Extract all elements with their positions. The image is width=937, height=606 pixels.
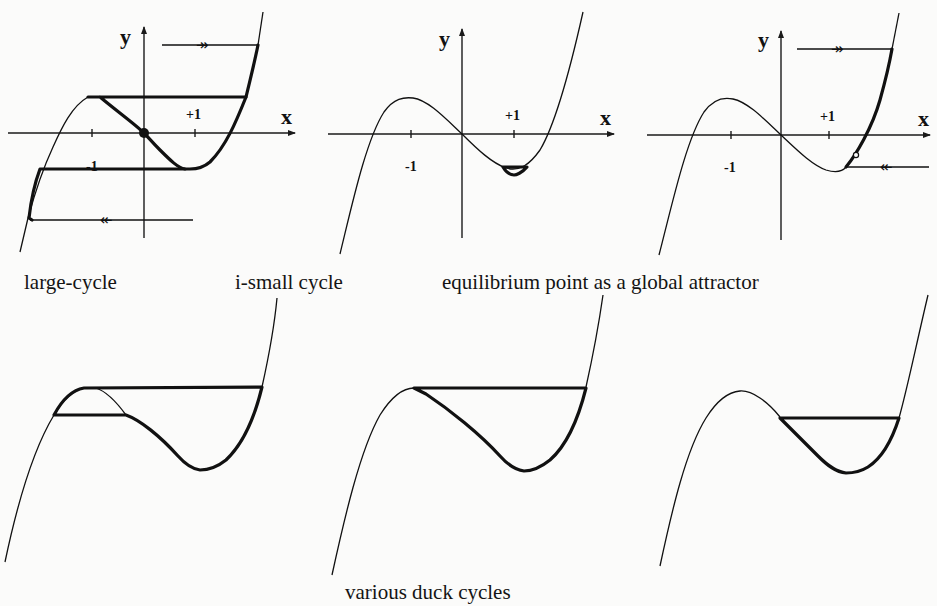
panel-i-small-cycle: y x +1 -1 [328, 12, 614, 254]
duck-cycle-3 [780, 418, 899, 473]
x-axis-label: x [918, 106, 929, 131]
duck-cycle-1 [54, 387, 262, 470]
x-axis-label: x [281, 104, 292, 129]
double-arrow-right-icon: ↠ [831, 41, 844, 57]
critical-manifold-curve [659, 98, 846, 255]
large-limit-cycle-left [246, 45, 258, 97]
panel-duck-cycle-2 [332, 295, 603, 575]
tick-label-neg: -1 [86, 159, 98, 174]
caption-large-cycle: large-cycle [24, 270, 117, 295]
attracting-branch [846, 49, 892, 167]
critical-manifold-curve [332, 388, 414, 575]
y-axis-label: y [439, 26, 450, 51]
tick-label-pos: +1 [820, 109, 835, 124]
critical-manifold-curve [20, 97, 88, 252]
tick-label-pos: +1 [186, 107, 201, 122]
y-axis-label: y [120, 24, 131, 49]
critical-manifold-curve-mid [96, 388, 126, 415]
caption-i-small-cycle: i-small cycle [235, 270, 343, 295]
panel-large-cycle: ↠ ↞ y x +1 -1 [8, 12, 295, 252]
critical-manifold-curve-top [892, 13, 899, 49]
x-axis-label: x [600, 105, 611, 130]
duck-cycles-figure: ↠ ↞ y x +1 -1 y x +1 -1 [0, 0, 937, 606]
y-axis-label: y [758, 27, 769, 52]
critical-manifold-curve-right [258, 12, 263, 45]
panel-duck-cycle-3 [660, 295, 928, 566]
double-arrow-right-icon: ↠ [196, 37, 209, 53]
tick-label-neg: -1 [405, 159, 417, 174]
tick-label-neg: -1 [724, 160, 736, 175]
panel-duck-cycle-1 [5, 298, 277, 562]
scanned-page: ↠ ↞ y x +1 -1 y x +1 -1 [0, 0, 937, 606]
critical-manifold-curve-top [899, 295, 928, 418]
caption-various-duck-cycles: various duck cycles [345, 580, 511, 605]
equilibrium-point [853, 152, 858, 157]
caption-global-attractor: equilibrium point as a global attractor [442, 270, 759, 295]
critical-manifold-curve-top [262, 298, 277, 387]
critical-manifold-curve-top [586, 295, 603, 387]
double-arrow-left-icon: ↞ [100, 212, 113, 228]
panel-global-attractor: ↠ ↞ y x +1 -1 [647, 13, 930, 255]
double-arrow-left-icon: ↞ [880, 159, 893, 175]
equilibrium-point [139, 128, 149, 138]
tick-label-pos: +1 [505, 108, 520, 123]
critical-manifold-curve [660, 391, 780, 566]
duck-cycle-2 [414, 388, 586, 471]
small-limit-cycle [503, 167, 527, 175]
